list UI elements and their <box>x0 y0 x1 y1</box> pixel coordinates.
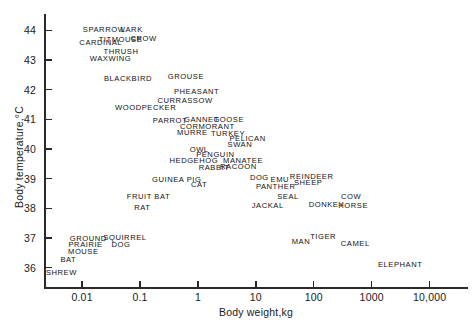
y-axis-tick <box>45 119 52 120</box>
data-point-label: SPARROW <box>83 24 126 33</box>
data-point-label: DOG <box>250 173 269 182</box>
data-point-label: RACOON <box>220 162 257 171</box>
data-point-label: SHREW <box>46 268 77 277</box>
x-axis-tick-label: 1000 <box>360 291 384 303</box>
y-axis-tick <box>45 178 52 179</box>
y-axis-title: Body temperature,°C <box>13 77 25 237</box>
y-axis-tick <box>45 148 52 149</box>
data-point-label: LARK <box>121 24 143 33</box>
x-axis-tick-label: 0.01 <box>71 291 92 303</box>
x-axis-tick-label: 10 <box>250 291 262 303</box>
data-point-label: PANTHER <box>256 182 296 191</box>
y-axis-tick-label: 44 <box>10 24 36 36</box>
y-axis-tick-label: 43 <box>10 54 36 66</box>
data-point-label: GROUSE <box>168 72 204 81</box>
data-point-label: DOG <box>112 239 131 248</box>
x-axis-title: Body weight,kg <box>44 306 468 318</box>
y-axis-tick <box>45 208 52 209</box>
data-point-label: ELEPHANT <box>378 260 423 269</box>
x-axis-tick-label: 10,000 <box>413 291 446 303</box>
data-point-label: TIGER <box>310 231 336 240</box>
data-point-label: WOODPECKER <box>115 103 176 112</box>
data-point-label: RAT <box>134 202 150 211</box>
x-axis-tick <box>313 281 314 288</box>
x-axis-tick <box>139 281 140 288</box>
y-axis-line <box>44 14 46 288</box>
data-point-label: BAT <box>60 254 76 263</box>
y-axis-tick <box>45 30 52 31</box>
x-axis-tick-label: 0.1 <box>132 291 147 303</box>
scatter-plot-figure: 363738394041424344 0.010.1110100100010,0… <box>0 0 474 324</box>
data-point-label: SWAN <box>228 139 253 148</box>
y-axis-tick-label: 36 <box>10 262 36 274</box>
data-point-label: SHEEP <box>294 178 323 187</box>
y-axis-tick <box>45 237 52 238</box>
x-axis-tick-label: 1 <box>195 291 201 303</box>
data-point-label: WAXWING <box>90 53 132 62</box>
data-point-label: BLACKBIRD <box>104 74 152 83</box>
data-point-label: MAN <box>292 237 311 246</box>
x-axis-tick <box>197 281 198 288</box>
x-axis-tick <box>255 281 256 288</box>
data-point-label: CROW <box>130 33 156 42</box>
data-point-label: MURRE <box>177 128 208 137</box>
x-axis-tick <box>81 281 82 288</box>
data-point-label: SEAL <box>277 191 299 200</box>
y-axis-tick <box>45 89 52 90</box>
data-point-label: JACKAL <box>252 200 284 209</box>
y-axis-tick <box>45 59 52 60</box>
x-axis-tick <box>371 281 372 288</box>
data-point-label: CARDINAL <box>79 38 122 47</box>
x-axis-tick <box>429 281 430 288</box>
data-point-label: FRUIT BAT <box>127 192 170 201</box>
data-point-label: HORSE <box>338 200 368 209</box>
data-point-label: CAMEL <box>341 239 370 248</box>
data-point-label: CAT <box>191 180 207 189</box>
x-axis-tick-label: 100 <box>305 291 323 303</box>
